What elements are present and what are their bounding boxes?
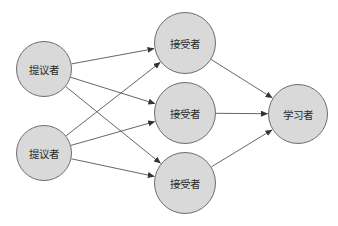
node-label: 提议者	[29, 62, 60, 77]
acceptor-node-2: 接受者	[154, 82, 216, 144]
acceptor-node-1: 接受者	[154, 12, 216, 74]
proposer-node-1: 提议者	[16, 41, 72, 97]
edge-p2-to-a3	[71, 159, 154, 177]
node-label: 提议者	[29, 146, 60, 161]
edge-p1-to-a1	[72, 49, 155, 64]
proposer-node-2: 提议者	[16, 125, 72, 181]
learner-node: 学习者	[268, 84, 328, 144]
edge-a1-to-l1	[211, 60, 272, 98]
node-label: 学习者	[283, 107, 314, 122]
node-label: 接受者	[170, 106, 201, 121]
acceptor-node-3: 接受者	[154, 152, 216, 214]
node-label: 接受者	[170, 176, 201, 191]
node-label: 接受者	[170, 36, 201, 51]
paxos-diagram: 提议者 提议者 接受者 接受者 接受者 学习者	[0, 0, 338, 226]
edge-a3-to-l1	[212, 130, 273, 167]
